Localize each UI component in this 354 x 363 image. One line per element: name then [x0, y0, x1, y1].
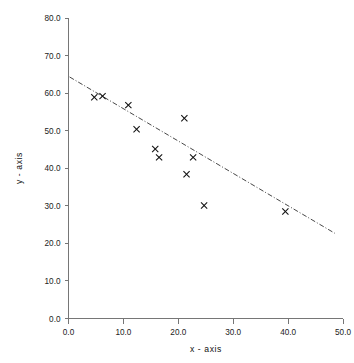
x-tick-label: 10.0 [115, 328, 131, 337]
y-tick-label: 60.0 [45, 89, 61, 98]
x-tick-label: 30.0 [225, 328, 241, 337]
data-point-marker [125, 102, 131, 108]
x-tick-label: 20.0 [170, 328, 186, 337]
data-points-group [91, 93, 288, 215]
data-point-marker [201, 202, 207, 208]
data-point-marker [99, 93, 105, 99]
y-tick-label: 0.0 [49, 315, 61, 324]
y-tick-label: 20.0 [45, 239, 61, 248]
x-axis-ticks: 0.010.020.030.040.050.0 [63, 319, 352, 337]
data-point-marker [152, 146, 158, 152]
data-point-marker [190, 154, 196, 160]
data-point-marker [183, 171, 189, 177]
data-point-marker [91, 94, 97, 100]
trend-line [70, 77, 335, 233]
x-axis-title: x - axis [190, 344, 222, 354]
data-point-marker [282, 208, 288, 214]
y-tick-label: 50.0 [45, 127, 61, 136]
data-point-marker [133, 126, 139, 132]
y-axis-title: y - axis [14, 152, 24, 184]
x-tick-label: 0.0 [63, 328, 75, 337]
data-point-marker [181, 115, 187, 121]
data-point-marker [156, 154, 162, 160]
trend-line-group [70, 77, 335, 233]
y-tick-label: 70.0 [45, 52, 61, 61]
x-tick-label: 40.0 [280, 328, 296, 337]
y-axis-ticks: 0.010.020.030.040.050.060.070.080.0 [45, 14, 69, 324]
y-tick-label: 40.0 [45, 164, 61, 173]
y-tick-label: 80.0 [45, 14, 61, 23]
y-tick-label: 30.0 [45, 202, 61, 211]
scatter-plot-figure: 0.010.020.030.040.050.060.070.080.0 0.01… [0, 0, 354, 363]
y-tick-label: 10.0 [45, 277, 61, 286]
plot-canvas: 0.010.020.030.040.050.060.070.080.0 0.01… [0, 0, 354, 363]
x-tick-label: 50.0 [335, 328, 351, 337]
